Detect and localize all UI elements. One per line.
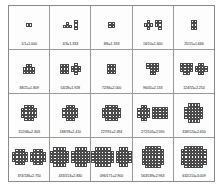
- polyomino-shape: [63, 22, 73, 28]
- grid-cell-empty: [43, 162, 46, 165]
- polyomino-shape: [184, 103, 203, 122]
- figure-cell: 16/10=1.600: [133, 6, 174, 49]
- grid-cell-empty: [156, 72, 159, 75]
- polyomino-group: [91, 6, 131, 43]
- grid-cell-filled: [113, 71, 116, 74]
- ratio-label: 16/10=1.600: [143, 43, 163, 48]
- polyomino-group: [91, 50, 131, 87]
- polyomino-group: [50, 50, 90, 87]
- ratio-label: 1/1=1.000: [21, 43, 37, 48]
- polyomino-shape: [12, 149, 28, 165]
- ratio-label: 54/28=1.928: [61, 87, 81, 92]
- polyomino-shape: [191, 20, 197, 30]
- polyomino-group: [50, 6, 90, 43]
- polyomino-shape: [108, 22, 114, 28]
- polyomino-shape: [21, 105, 37, 121]
- polyomino-shape: [180, 63, 193, 76]
- grid-cell-empty: [118, 118, 121, 121]
- ratio-label: 124/55=2.254: [183, 87, 204, 92]
- grid-cell-empty: [111, 163, 114, 166]
- grid-cell-filled: [74, 27, 77, 30]
- figure-cell: 188/78=2.410: [50, 94, 91, 137]
- grid-cell-empty: [66, 163, 69, 166]
- grid-cell-filled: [69, 25, 72, 28]
- polyomino-shape: [50, 147, 69, 166]
- polyomino-shape: [102, 105, 121, 121]
- grid-cell-empty: [25, 162, 28, 165]
- ratio-label: 632/210=3.009: [182, 175, 205, 180]
- polyomino-shape: [152, 107, 168, 120]
- polyomino-shape: [146, 63, 159, 76]
- grid-cell-empty: [190, 72, 193, 75]
- figure-cell: 124/55=2.254: [174, 50, 214, 93]
- ratio-label: 374/136=2.750: [17, 175, 40, 180]
- polyomino-shape: [144, 20, 154, 30]
- ratio-label: 38/21=1.809: [19, 87, 39, 92]
- ratio-label: 4/3=1.333: [62, 43, 78, 48]
- polyomino-group: [174, 138, 214, 175]
- figure-cell: 318/120=2.650: [174, 94, 214, 137]
- ratio-label: 272/105=2.590: [141, 131, 164, 136]
- polyomino-group: [133, 6, 173, 43]
- polyomino-group: [133, 50, 173, 87]
- polyomino-shape: [181, 146, 207, 168]
- grid-cell-empty: [87, 163, 90, 166]
- grid-cell-empty: [150, 27, 153, 30]
- figure-row: 152/66=2.303188/78=2.410227/91=2.494272/…: [9, 94, 214, 138]
- polyomino-shape: [137, 105, 150, 121]
- figure-cell: 4/3=1.333: [50, 6, 91, 49]
- grid-cell-filled: [32, 71, 35, 74]
- polyomino-shape: [142, 146, 164, 168]
- grid-cell-filled: [165, 116, 168, 119]
- polyomino-shape: [155, 20, 161, 30]
- grid-cell-filled: [66, 71, 69, 74]
- polyomino-shape: [26, 23, 32, 26]
- figure-cell: 272/105=2.590: [133, 94, 174, 137]
- polyomino-group: [50, 138, 90, 175]
- ratio-label: 188/78=2.410: [60, 131, 81, 136]
- polyomino-group: [174, 50, 214, 87]
- grid-cell-empty: [200, 119, 203, 122]
- ratio-label: 496/171=2.900: [100, 175, 123, 180]
- figure-cell: 72/36=2.000: [91, 50, 132, 93]
- polyomino-group: [133, 138, 173, 175]
- grid-cell-filled: [29, 23, 32, 26]
- grid-cell-empty: [78, 72, 81, 75]
- figure-cell: 54/28=1.928: [50, 50, 91, 93]
- ratio-label: 318/120=2.650: [182, 131, 205, 136]
- grid-cell-filled: [112, 25, 115, 28]
- grid-cell-empty: [128, 163, 131, 166]
- grid-cell-empty: [161, 165, 164, 168]
- polyomino-group: [174, 94, 214, 131]
- grid-cell-filled: [194, 27, 197, 30]
- polyomino-group: [50, 94, 90, 131]
- polyomino-group: [174, 6, 214, 43]
- ratio-label: 25/15=1.666: [184, 43, 204, 48]
- ratio-label: 152/66=2.303: [18, 131, 39, 136]
- figure-cell: 25/15=1.666: [174, 6, 214, 49]
- figure-cell: 374/136=2.750: [9, 138, 50, 181]
- ratio-label: 433/153=2.830: [59, 175, 82, 180]
- figure-cell: 152/66=2.303: [9, 94, 50, 137]
- ratio-label: 227/91=2.494: [101, 131, 122, 136]
- polyomino-group: [9, 50, 49, 87]
- polyomino-shape: [74, 20, 77, 30]
- figure-row: 374/136=2.750433/153=2.830496/171=2.9005…: [9, 138, 214, 181]
- polyomino-group: [133, 94, 173, 131]
- ratio-label: 96/45=2.133: [143, 87, 163, 92]
- figure-cell: 496/171=2.900: [91, 138, 132, 181]
- polyomino-group: [9, 6, 49, 43]
- polyomino-shape: [116, 147, 132, 166]
- polyomino-shape: [107, 64, 117, 74]
- polyomino-shape: [71, 63, 81, 76]
- polyomino-group: [91, 94, 131, 131]
- figure-cell: 8/6=1.333: [91, 6, 132, 49]
- grid-cell-filled: [158, 27, 161, 30]
- grid-cell-empty: [204, 72, 207, 75]
- figure-cell: 563/189=2.963: [133, 138, 174, 181]
- polyomino-group: [9, 138, 49, 175]
- figure-cell: 1/1=1.000: [9, 6, 50, 49]
- figure-cell: 38/21=1.809: [9, 50, 50, 93]
- grid-cell-empty: [34, 118, 37, 121]
- polyomino-shape: [23, 64, 36, 74]
